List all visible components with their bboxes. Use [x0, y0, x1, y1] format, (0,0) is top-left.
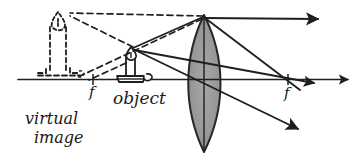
focal-label-right: f [283, 84, 292, 102]
ray-diagram-figure: f f object virtual image [0, 0, 360, 159]
virtual-image-label-line2: image [34, 128, 84, 147]
ray-diagram-canvas: f f object virtual image [0, 0, 360, 159]
virtual-candle-holder [38, 68, 78, 73]
dashed-middle-extension [70, 16, 133, 47]
dashed-lower-extension [78, 19, 202, 77]
solid-rays [133, 17, 318, 129]
focal-label-left: f [88, 83, 97, 101]
virtual-image-label-line1: virtual [25, 109, 78, 128]
object-label: object [113, 88, 166, 108]
ray-to-right-focal-point [134, 50, 314, 83]
dashed-upper-extension [70, 13, 203, 16]
virtual-image-candle [38, 12, 80, 76]
ray-refracted-horizontal [204, 18, 318, 19]
object-candle-handle [144, 74, 152, 81]
